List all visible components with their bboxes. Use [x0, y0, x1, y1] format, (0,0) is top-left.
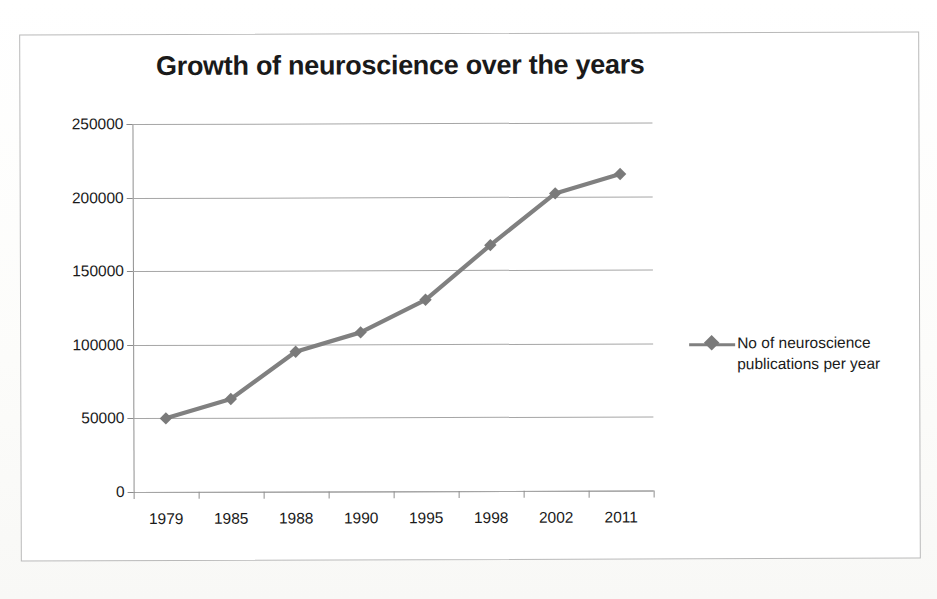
legend-entry-label: No of neuroscience publications per year	[737, 333, 880, 375]
x-tick-mark	[654, 490, 655, 497]
legend-label-line-1: No of neuroscience	[737, 333, 880, 354]
chart-frame: Growth of neuroscience over the years 05…	[19, 32, 921, 562]
y-axis-tick-label: 150000	[72, 262, 124, 280]
plot-area: 050000100000150000200000250000 197919851…	[132, 122, 653, 492]
series-line-group	[132, 122, 653, 492]
legend-marker-icon	[689, 334, 735, 354]
y-axis-tick-label: 100000	[72, 336, 124, 354]
chart-page: Growth of neuroscience over the years 05…	[0, 0, 937, 599]
x-axis-tick-label: 1995	[409, 509, 444, 527]
y-axis-tick-label: 200000	[72, 189, 124, 207]
series-markers	[159, 168, 627, 425]
data-point-marker	[160, 412, 172, 424]
y-axis-tick-label: 0	[116, 483, 125, 501]
x-axis-tick-label: 1988	[279, 509, 314, 527]
y-axis-tick-label: 50000	[81, 409, 124, 427]
x-tick-mark	[199, 492, 200, 499]
x-axis-tick-label: 1985	[214, 510, 249, 528]
x-tick-mark	[459, 491, 460, 498]
x-tick-mark	[264, 492, 265, 499]
legend-label-line-2: publications per year	[737, 353, 880, 374]
series-line	[165, 174, 621, 418]
x-axis-tick-label: 1979	[149, 510, 184, 528]
legend: No of neuroscience publications per year	[689, 333, 909, 375]
y-axis-tick-label: 250000	[72, 115, 124, 133]
x-tick-mark	[329, 491, 330, 498]
x-axis-tick-label: 1990	[344, 509, 379, 527]
chart-title: Growth of neuroscience over the years	[20, 49, 780, 82]
legend-diamond-icon	[704, 335, 720, 351]
x-tick-mark	[134, 492, 135, 499]
x-tick-mark	[589, 491, 590, 498]
x-axis-tick-label: 1998	[474, 509, 509, 527]
x-tick-mark	[394, 491, 395, 498]
x-axis-tick-label: 2011	[604, 508, 637, 526]
x-axis-tick-label: 2002	[539, 509, 574, 527]
data-point-marker	[614, 168, 626, 180]
x-tick-mark	[524, 491, 525, 498]
